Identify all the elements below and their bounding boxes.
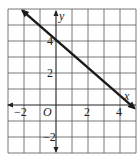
y-tick-label: 4 [47, 34, 53, 48]
axes [7, 10, 136, 153]
x-tick-label: 4 [116, 105, 122, 119]
y-tick-label: −2 [43, 130, 56, 144]
y-axis-arrow-down-icon [54, 147, 59, 153]
plotted-line [21, 9, 136, 109]
x-tick-label: 2 [84, 105, 90, 119]
y-axis-arrow-up-icon [54, 10, 59, 16]
coordinate-plane: −22442−2 x y O [0, 0, 140, 158]
y-tick-label: 2 [47, 66, 53, 80]
x-tick-label: −2 [14, 105, 27, 119]
y-axis-label: y [58, 9, 65, 23]
origin-label: O [43, 105, 52, 119]
grid-lines [8, 9, 136, 153]
x-axis-label: x [123, 89, 130, 103]
